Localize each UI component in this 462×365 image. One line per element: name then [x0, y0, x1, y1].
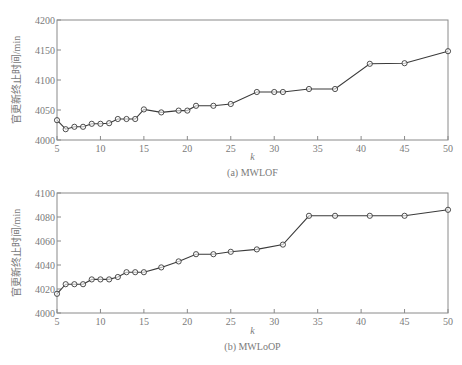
x-tick-label: 40 [356, 316, 366, 327]
x-tick-label: 20 [182, 143, 192, 154]
y-tick-label: 4200 [35, 15, 55, 26]
y-tick-label: 4060 [35, 236, 55, 247]
plot-frame [57, 193, 448, 313]
data-point-marker [80, 282, 85, 287]
data-point-marker [228, 101, 233, 106]
data-point-marker [185, 108, 190, 113]
y-axis-label: 官更新终止时间/min [10, 209, 22, 297]
data-point-marker [159, 110, 164, 115]
y-tick-label: 4000 [35, 135, 55, 146]
x-tick-label: 35 [313, 316, 323, 327]
data-point-marker [445, 49, 450, 54]
data-point-marker [367, 61, 372, 66]
x-axis-label: k [250, 325, 255, 336]
data-point-marker [80, 124, 85, 129]
data-point-marker [254, 247, 259, 252]
y-tick-label: 4050 [35, 105, 55, 116]
x-tick-label: 30 [269, 316, 279, 327]
data-point-marker [280, 89, 285, 94]
data-point-marker [63, 127, 68, 132]
data-point-marker [141, 107, 146, 112]
chart-caption: (a) MWLOF [227, 167, 278, 179]
x-tick-label: 25 [226, 316, 236, 327]
data-point-marker [280, 242, 285, 247]
data-point-marker [98, 277, 103, 282]
plot-frame [57, 20, 448, 140]
x-tick-label: 5 [55, 143, 60, 154]
data-point-marker [107, 277, 112, 282]
x-tick-label: 5 [55, 316, 60, 327]
x-tick-label: 15 [139, 316, 149, 327]
data-point-marker [211, 252, 216, 257]
data-point-marker [63, 282, 68, 287]
chart-panel-a: 510152025303540455040004050410041504200官… [10, 15, 453, 180]
y-tick-label: 4100 [35, 188, 55, 199]
x-tick-label: 10 [95, 143, 105, 154]
y-tick-label: 4080 [35, 212, 55, 223]
y-tick-label: 4150 [35, 45, 55, 56]
data-point-marker [89, 277, 94, 282]
x-tick-label: 40 [356, 143, 366, 154]
x-tick-label: 45 [400, 316, 410, 327]
x-tick-label: 10 [95, 316, 105, 327]
data-point-marker [193, 252, 198, 257]
data-point-marker [228, 249, 233, 254]
data-point-marker [193, 103, 198, 108]
data-point-marker [445, 207, 450, 212]
data-point-marker [254, 89, 259, 94]
data-point-marker [107, 121, 112, 126]
data-point-marker [159, 265, 164, 270]
data-point-marker [306, 213, 311, 218]
data-point-marker [176, 108, 181, 113]
data-point-marker [115, 116, 120, 121]
data-point-marker [54, 291, 59, 296]
data-point-marker [176, 259, 181, 264]
y-tick-label: 4040 [35, 260, 55, 271]
chart-canvas: 510152025303540455040004050410041504200官… [0, 0, 462, 365]
y-tick-label: 4100 [35, 75, 55, 86]
data-point-marker [115, 274, 120, 279]
chart-caption: (b) MWLoOP [224, 341, 281, 353]
data-point-marker [332, 86, 337, 91]
data-point-marker [332, 213, 337, 218]
x-tick-label: 20 [182, 316, 192, 327]
x-tick-label: 45 [400, 143, 410, 154]
data-point-marker [98, 121, 103, 126]
data-point-marker [54, 118, 59, 123]
data-point-marker [124, 116, 129, 121]
x-tick-label: 30 [269, 143, 279, 154]
x-tick-label: 25 [226, 143, 236, 154]
chart-panel-b: 5101520253035404550400040204040406040804… [10, 188, 453, 354]
series-line [57, 210, 448, 294]
data-point-marker [72, 124, 77, 129]
data-point-marker [72, 282, 77, 287]
data-point-marker [402, 213, 407, 218]
data-point-marker [211, 103, 216, 108]
data-point-marker [367, 213, 372, 218]
x-tick-label: 15 [139, 143, 149, 154]
figure: 510152025303540455040004050410041504200官… [0, 0, 462, 365]
data-point-marker [89, 121, 94, 126]
y-tick-label: 4000 [35, 308, 55, 319]
x-tick-label: 50 [443, 143, 453, 154]
data-point-marker [272, 89, 277, 94]
x-axis-label: k [250, 151, 255, 162]
x-tick-label: 35 [313, 143, 323, 154]
y-tick-label: 4020 [35, 284, 55, 295]
data-point-marker [133, 270, 138, 275]
data-point-marker [402, 61, 407, 66]
data-point-marker [133, 116, 138, 121]
data-point-marker [141, 270, 146, 275]
y-axis-label: 官更新终止时间/min [10, 36, 22, 124]
data-point-marker [306, 86, 311, 91]
data-point-marker [124, 270, 129, 275]
x-tick-label: 50 [443, 316, 453, 327]
